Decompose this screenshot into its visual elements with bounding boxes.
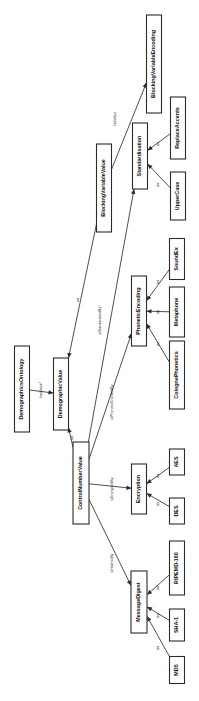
edge-label-SoundEx-PhoneticEncoding: isa (156, 280, 160, 285)
edge-label-DemographicsOntology-DemographicValue: hasValue* (39, 381, 43, 398)
node-label: Encryption (135, 475, 141, 503)
node-label: ColognePhonetics (173, 351, 179, 398)
node-RIPEMD-160[interactable]: RIPEMD-160 (170, 541, 185, 595)
node-DES[interactable]: DES (170, 498, 185, 524)
arrow-head (48, 390, 53, 394)
edge-label-SHA-1-MessageDigest: isa (156, 614, 160, 619)
edge-label-ControlNumberValue-DemographicValue: isa (70, 436, 74, 441)
node-BlockingVariableValue[interactable]: BlockingVariableValue (97, 144, 112, 232)
node-label: MD5 (173, 664, 179, 675)
arrow-head (131, 189, 135, 194)
node-label: MessageDigest (135, 582, 141, 621)
arrow-head (147, 295, 152, 300)
node-label: PhoneticEncoding (135, 287, 141, 334)
edge-label-RIPEMD-160-MessageDigest: isa (156, 586, 160, 591)
edge-label-BlockingVariableValue-DemographicValue: isa (76, 298, 80, 303)
edge-label-BlockingVariableValue-BlockingVariableEncoding: hasValue (113, 112, 117, 127)
edge-label-UpperCase-Standardisation: isa (156, 183, 160, 188)
edge-BlockingVariableValue-to-DemographicValue (67, 224, 96, 358)
ontology-diagram: DemographicsOntologyDemographicValueBloc… (0, 0, 199, 701)
node-DemographicsOntology[interactable]: DemographicsOntology (15, 346, 30, 432)
node-label: Standardisation (136, 136, 142, 177)
edge-label-ControlNumberValue-PhoneticEncoding: isPhoneticEncodedBy (110, 384, 114, 419)
edge-label-ControlNumberValue-Standardisation: isStandardisedBy* (98, 305, 102, 335)
node-label: DemographicValue (57, 370, 63, 419)
arrow-head (147, 309, 152, 313)
node-label: ControlNumberValue (77, 456, 83, 510)
node-DemographicValue[interactable]: DemographicValue (54, 358, 69, 430)
node-label: DemographicsOntology (18, 358, 24, 419)
node-ControlNumberValue[interactable]: ControlNumberValue (73, 442, 89, 524)
edge-label-ControlNumberValue-Encryption: isEncryptedBy (110, 477, 114, 500)
edge-line (69, 224, 97, 358)
edge-label-DES-Encryption: isa (156, 502, 160, 507)
node-label: BlockingVariableValue (100, 159, 106, 217)
arrow-head (67, 353, 71, 358)
node-MD5[interactable]: MD5 (170, 657, 185, 684)
node-label: ReplaceAccents (174, 107, 180, 149)
node-label: Metaphone (173, 298, 179, 326)
node-label: SHA-1 (173, 617, 179, 633)
node-AES[interactable]: AES (170, 449, 185, 475)
edge-label-ControlNumberValue-MessageDigest: isHashedBy (110, 553, 114, 572)
edge-label-ColognePhonetics-PhoneticEncoding: isa (156, 342, 160, 347)
node-label: DES (173, 505, 179, 516)
ontology-graph-svg: DemographicsOntologyDemographicValueBloc… (0, 0, 199, 701)
arrow-head (147, 607, 152, 611)
node-label: RIPEMD-160 (173, 552, 179, 584)
edge-RIPEMD-160-to-MessageDigest (147, 575, 170, 595)
node-label: SoundEx (173, 247, 179, 270)
node-PhoneticEncoding[interactable]: PhoneticEncoding (132, 276, 147, 346)
node-SoundEx[interactable]: SoundEx (170, 239, 185, 280)
edge-label-Metaphone-PhoneticEncoding: isa (156, 310, 160, 315)
node-Standardisation[interactable]: Standardisation (133, 123, 148, 189)
node-label: UpperCase (174, 182, 180, 210)
node-SHA-1[interactable]: SHA-1 (170, 609, 185, 641)
node-label: BlockingVariableEncoding (150, 30, 156, 98)
node-ColognePhonetics[interactable]: ColognePhonetics (170, 341, 185, 409)
node-BlockingVariableEncoding[interactable]: BlockingVariableEncoding (147, 15, 162, 113)
edge-label-ReplaceAccents-Standardisation: isa (156, 142, 160, 147)
node-label: AES (173, 456, 179, 467)
node-Metaphone[interactable]: Metaphone (170, 287, 185, 337)
node-Encryption[interactable]: Encryption (132, 464, 147, 514)
node-UpperCase[interactable]: UpperCase (171, 172, 186, 220)
edge-label-AES-Encryption: isa (156, 474, 160, 479)
node-ReplaceAccents[interactable]: ReplaceAccents (171, 97, 186, 159)
node-MessageDigest[interactable]: MessageDigest (131, 571, 147, 633)
edge-label-MD5-MessageDigest: isa (156, 646, 160, 651)
arrow-head (147, 479, 152, 484)
arrow-head (148, 146, 153, 151)
